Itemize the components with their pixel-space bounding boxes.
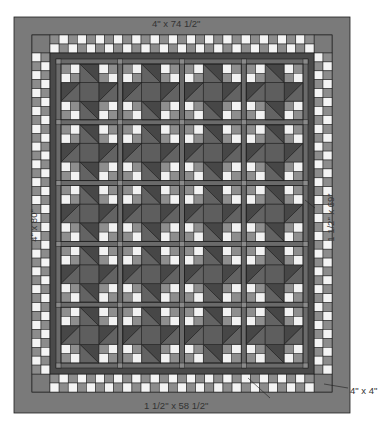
four-patch-square [284,284,293,293]
four-patch-square [108,162,117,171]
four-patch-square [294,344,303,353]
four-patch-square [123,307,132,316]
checker-square [123,35,132,44]
checker-square [323,312,332,321]
four-patch-square [185,223,194,232]
checker-square [123,383,132,392]
checker-square [41,321,50,330]
checker-square [323,142,332,151]
checker-square [41,240,50,249]
checker-square [296,383,305,392]
checker-square [314,53,323,62]
four-patch-square [170,125,179,134]
four-patch-square [194,64,203,73]
four-patch-square [123,134,132,143]
checker-square [314,276,323,285]
four-patch-square [256,125,265,134]
checker-square [214,383,223,392]
four-patch-square [194,111,203,120]
four-patch-square [108,186,117,195]
four-patch-square [284,171,293,180]
four-patch-square [232,232,241,241]
checker-square [323,133,332,142]
four-patch-square [61,284,70,293]
four-patch-square [61,101,70,110]
four-patch-square [132,232,141,241]
checker-square [41,214,50,223]
checker-square [41,303,50,312]
cornerstone [180,120,185,125]
four-patch-square [123,111,132,120]
four-patch-square [99,223,108,232]
checker-square [41,356,50,365]
four-patch-square [170,101,179,110]
four-patch-square [170,344,179,353]
checker-square [32,347,41,356]
four-patch-square [222,134,231,143]
checker-square [314,312,323,321]
checker-square [187,44,196,53]
checker-square [259,44,268,53]
four-patch-square [185,307,194,316]
corner-square [314,374,332,392]
checker-square [32,338,41,347]
checker-square [214,44,223,53]
four-patch-square [185,134,194,143]
four-patch-square [108,101,117,110]
checker-square [50,383,59,392]
checker-square [41,62,50,71]
four-patch-square [194,101,203,110]
four-patch-square [170,307,179,316]
four-patch-square [185,195,194,204]
four-patch-square [284,223,293,232]
checker-square [323,80,332,89]
cornerstone [56,363,61,368]
four-patch-square [161,101,170,110]
four-patch-square [70,256,79,265]
four-patch-square [222,284,231,293]
four-patch-square [194,186,203,195]
four-patch-square [246,125,255,134]
four-patch-square [161,186,170,195]
checker-square [296,44,305,53]
four-patch-square [161,134,170,143]
four-patch-square [61,73,70,82]
checker-square [41,160,50,169]
four-patch-square [232,171,241,180]
checker-square [323,258,332,267]
checker-square [105,35,114,44]
four-patch-square [232,256,241,265]
four-patch-square [108,134,117,143]
cornerstone [303,302,308,307]
checker-square [32,62,41,71]
cornerstone [118,120,123,125]
four-patch-square [294,162,303,171]
four-patch-square [61,111,70,120]
four-patch-square [70,171,79,180]
four-patch-square [123,195,132,204]
four-patch-square [256,256,265,265]
checker-square [86,44,95,53]
four-patch-square [99,246,108,255]
four-patch-square [284,162,293,171]
four-patch-square [108,171,117,180]
four-patch-square [108,246,117,255]
four-patch-square [70,64,79,73]
checker-square [187,374,196,383]
four-patch-square [61,195,70,204]
four-patch-square [123,125,132,134]
four-patch-square [132,246,141,255]
four-patch-square [132,354,141,363]
four-patch-square [161,354,170,363]
four-patch-square [256,284,265,293]
four-patch-square [61,354,70,363]
checker-square [241,35,250,44]
four-patch-square [294,186,303,195]
checker-square [32,356,41,365]
four-patch-square [232,354,241,363]
four-patch-square [170,232,179,241]
checker-square [68,374,77,383]
checker-square [32,98,41,107]
four-patch-square [284,64,293,73]
four-patch-square [194,162,203,171]
